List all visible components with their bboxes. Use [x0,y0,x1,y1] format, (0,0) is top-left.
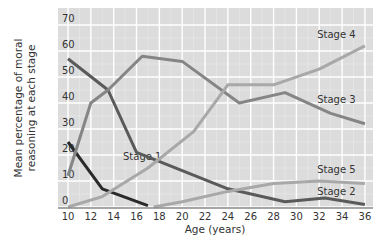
x-tick-label: 10 [62,211,75,222]
chart: 010203040506070 101214161820222426283032… [0,0,385,245]
x-tick-label: 16 [130,211,143,222]
x-tick-label: 28 [267,211,280,222]
series-label: Stage 3 [317,94,355,105]
x-tick-label: 24 [222,211,235,222]
x-tick-label: 30 [290,211,303,222]
y-tick-label: 40 [62,91,75,102]
x-tick-label: 14 [107,211,120,222]
y-tick-label: 60 [62,39,75,50]
y-axis-label: Mean percentage of moral reasoning at ea… [12,39,37,178]
series-label: Stage 4 [317,29,355,40]
x-tick-label: 12 [84,211,97,222]
x-tick-label: 32 [313,211,326,222]
x-tick-label: 20 [176,211,189,222]
svg-text:Mean percentage of moral: Mean percentage of moral [12,39,24,178]
series-label: Stage 5 [317,164,355,175]
x-ticks: 1012141618202224262830323436 [62,211,372,222]
x-tick-label: 22 [199,211,212,222]
x-tick-label: 18 [153,211,166,222]
y-tick-label: 70 [62,13,75,24]
x-tick-label: 34 [336,211,349,222]
series-label: Stage 2 [317,186,355,197]
y-tick-label: 50 [62,65,75,76]
y-tick-label: 0 [62,195,68,206]
x-axis-label: Age (years) [185,223,246,235]
y-tick-label: 30 [62,117,75,128]
svg-text:reasoning at each stage: reasoning at each stage [25,45,37,172]
x-tick-label: 26 [244,211,257,222]
x-tick-label: 36 [359,211,372,222]
